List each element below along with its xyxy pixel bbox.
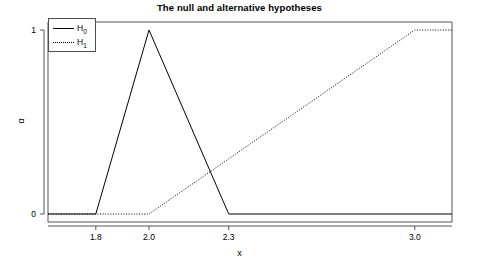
y-tick-label-1: 1 — [24, 25, 36, 35]
x-ticks-group — [96, 226, 415, 230]
chart-figure: The null and alternative hypotheses 1.8 … — [0, 0, 479, 268]
x-tick-label-3-0: 3.0 — [409, 232, 421, 242]
axes-group — [44, 22, 452, 226]
x-tick-label-2-3: 2.3 — [223, 232, 235, 242]
y-tick-label-0: 0 — [24, 209, 36, 219]
series-line-h0 — [48, 30, 452, 214]
legend-label-h0: H0 — [77, 21, 87, 35]
legend-label-h0-sub: 0 — [83, 28, 87, 35]
chart-legend: H0 H1 — [48, 18, 96, 52]
y-axis-title: α — [16, 118, 26, 123]
series-line-h1 — [48, 30, 452, 214]
legend-key-solid-line-icon — [53, 28, 74, 29]
legend-key-dotted-line-icon — [53, 42, 74, 43]
x-axis-title: x — [0, 248, 479, 258]
legend-item-h0[interactable]: H0 — [49, 21, 97, 36]
legend-label-h1-sub: 1 — [83, 42, 87, 49]
legend-item-h1[interactable]: H1 — [49, 35, 97, 50]
series-group — [48, 30, 452, 214]
y-ticks-group — [40, 30, 44, 214]
x-tick-label-1-8: 1.8 — [90, 232, 102, 242]
plot-frame — [48, 22, 452, 222]
x-tick-label-2-0: 2.0 — [143, 232, 155, 242]
legend-label-h1: H1 — [77, 35, 87, 49]
